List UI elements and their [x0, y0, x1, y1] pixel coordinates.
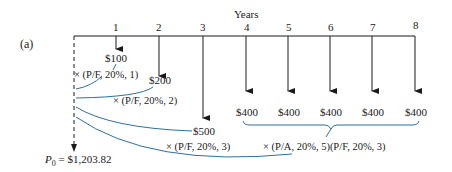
brace-tick: [326, 129, 331, 137]
amount-year-2: $200: [149, 75, 171, 86]
year-label-2: 2: [156, 22, 162, 33]
present-value-arrow-icon: [71, 144, 77, 152]
year-label-6: 6: [328, 22, 334, 33]
amount-year-5: $400: [278, 107, 300, 118]
year-label-8: 8: [413, 20, 419, 31]
amount-year-3: $500: [193, 126, 215, 137]
axis-title: Years: [234, 9, 259, 20]
panel-label: (a): [20, 38, 33, 50]
year-label-4: 4: [244, 22, 250, 33]
factor-year-3: × (P/F, 20%, 3): [166, 142, 230, 153]
amount-year-8: $400: [405, 107, 427, 118]
present-value-label: P0 = $1,203.82: [45, 154, 111, 168]
year-label-7: 7: [370, 22, 376, 33]
present-value-subscript: 0: [52, 159, 56, 168]
amount-year-1: $100: [105, 53, 127, 64]
factor-year-1: × (P/F, 20%, 1): [74, 70, 138, 81]
present-value-amount: = $1,203.82: [58, 153, 111, 165]
amount-year-4: $400: [236, 107, 258, 118]
factor-year-2: × (P/F, 20%, 2): [113, 96, 177, 107]
year-label-3: 3: [200, 22, 206, 33]
amount-year-7: $400: [362, 107, 384, 118]
amount-year-6: $400: [320, 107, 342, 118]
year-label-1: 1: [113, 22, 119, 33]
annuity-brace: [243, 121, 419, 129]
year-label-5: 5: [286, 22, 292, 33]
present-value-symbol: P: [45, 153, 52, 165]
annuity-factor: × (P/A, 20%, 5)(P/F, 20%, 3): [263, 142, 386, 153]
